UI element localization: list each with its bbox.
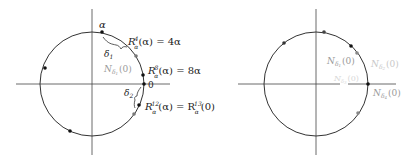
n-delta1-label: Nδ1(0) xyxy=(103,64,132,76)
orbit-point xyxy=(141,73,145,77)
orbit-point xyxy=(322,30,326,34)
n-delta1-right-label: Nδ1(0) xyxy=(326,56,355,68)
r12-label: R12α(α) = R13α(0) xyxy=(144,100,215,115)
orbit-point xyxy=(355,51,359,55)
r4-label: R4α(α) = 4α xyxy=(127,35,181,50)
orbit-point xyxy=(43,66,47,70)
orbit-point xyxy=(134,54,138,58)
orbit-point xyxy=(142,82,146,86)
n-delta4-label: Nδ4(0) xyxy=(372,88,401,100)
orbit-point xyxy=(68,129,72,133)
n-delta2-label: Nδ2(0) xyxy=(370,59,399,71)
figure: α R4α(α) = 4α δ1 Nδ1(0) R8α(α) = 8α 0 δ2… xyxy=(0,0,412,165)
alpha-label: α xyxy=(99,19,106,30)
orbit-point xyxy=(100,30,104,34)
orbit-point xyxy=(349,44,353,48)
orbit-point xyxy=(282,41,286,45)
delta1-label: δ1 xyxy=(104,49,113,60)
r8-label: R8α(α) = 8α xyxy=(147,64,201,79)
orbit-point xyxy=(366,82,370,86)
right-panel: Nδ1(0) Nδ2(0) Nδ3(0) Nδ4(0) xyxy=(238,9,401,155)
n-delta3-label: Nδ3(0) xyxy=(333,74,359,85)
left-panel: α R4α(α) = 4α δ1 Nδ1(0) R8α(α) = 8α 0 δ2… xyxy=(16,9,215,155)
right-orbit-points xyxy=(282,30,370,115)
zero-label: 0 xyxy=(148,80,154,90)
orbit-point xyxy=(132,112,136,116)
orbit-point xyxy=(356,111,360,115)
orbit-point xyxy=(137,103,141,107)
delta2-label: δ2 xyxy=(124,88,133,99)
